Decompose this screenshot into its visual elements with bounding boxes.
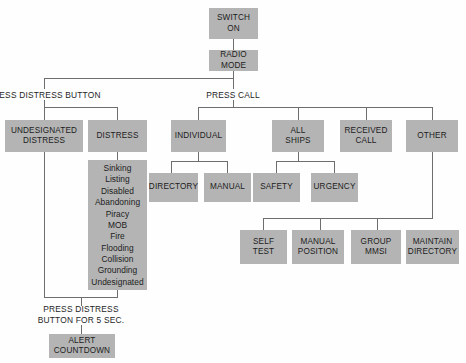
node-manual[interactable]: MANUAL xyxy=(204,173,251,202)
connector-individual-down xyxy=(198,152,199,161)
connector-to-manual-position xyxy=(320,218,321,230)
node-radio-mode[interactable]: RADIO MODE xyxy=(209,50,258,71)
connector-distress-to-list xyxy=(117,152,118,160)
connector-to-other xyxy=(432,107,433,120)
node-distress[interactable]: DISTRESS xyxy=(88,120,147,152)
connector-main-split xyxy=(44,78,234,79)
connector-to-safety xyxy=(276,161,277,173)
node-distress-types-list[interactable]: Sinking Listing Disabled Abandoning Pira… xyxy=(88,160,147,290)
connector-to-received-call xyxy=(366,107,367,120)
connector-undesignated-to-join xyxy=(44,152,45,297)
connector-to-group-mmsi xyxy=(377,218,378,230)
connector-to-press-distress-label xyxy=(44,78,45,89)
node-alert-countdown[interactable]: ALERT COUNTDOWN xyxy=(49,334,115,358)
connector-to-directory xyxy=(171,161,172,173)
node-all-ships[interactable]: ALL SHIPS xyxy=(272,120,324,152)
connector-distress-split xyxy=(44,107,118,108)
connector-to-manual xyxy=(227,161,228,173)
connector-to-self-test xyxy=(263,218,264,230)
node-safety[interactable]: SAFETY xyxy=(253,173,300,202)
connector-switchon-radiomode xyxy=(233,39,234,50)
label-press-distress-button-5sec: PRESS DISTRESS BUTTON FOR 5 SEC. xyxy=(38,304,125,326)
connector-allships-down xyxy=(298,152,299,161)
connector-other-down xyxy=(432,152,433,218)
connector-to-distress xyxy=(117,107,118,120)
connector-to-individual xyxy=(198,107,199,120)
node-received-call[interactable]: RECEIVED CALL xyxy=(340,120,392,152)
node-individual[interactable]: INDIVIDUAL xyxy=(171,120,226,152)
label-press-call: PRESS CALL xyxy=(206,90,260,101)
connector-to-press-call-label xyxy=(233,78,234,89)
connector-5sec-to-alert xyxy=(81,325,82,334)
node-self-test[interactable]: SELF TEST xyxy=(240,230,287,264)
node-undesignated-distress[interactable]: UNDESIGNATED DISTRESS xyxy=(5,120,83,152)
connector-to-all-ships xyxy=(298,107,299,120)
flowchart-canvas: SWITCH ON RADIO MODE UNDESIGNATED DISTRE… xyxy=(0,0,466,363)
connector-to-undesignated-distress xyxy=(44,107,45,120)
node-urgency[interactable]: URGENCY xyxy=(311,173,358,202)
connector-allships-split xyxy=(276,161,334,162)
node-maintain-directory[interactable]: MAINTAIN DIRECTORY xyxy=(406,230,459,264)
connector-to-urgency xyxy=(334,161,335,173)
connector-individual-split xyxy=(171,161,227,162)
connector-other-split xyxy=(263,218,433,219)
node-group-mmsi[interactable]: GROUP MMSI xyxy=(351,230,401,264)
node-manual-position[interactable]: MANUAL POSITION xyxy=(292,230,344,264)
connector-call-split xyxy=(198,107,432,108)
node-switch-on[interactable]: SWITCH ON xyxy=(209,8,258,39)
node-other[interactable]: OTHER xyxy=(406,120,458,152)
node-directory[interactable]: DIRECTORY xyxy=(149,173,198,202)
label-press-distress-button: PRESS DISTRESS BUTTON xyxy=(0,90,101,101)
